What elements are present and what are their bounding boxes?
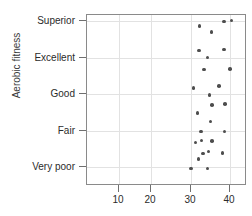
plot-area bbox=[87, 15, 245, 184]
vertical-gridline bbox=[191, 15, 192, 184]
scatter-plot-figure: Aerobic fitness SuperiorExcellentGoodFai… bbox=[0, 0, 252, 216]
x-axis-tick bbox=[150, 185, 151, 192]
y-axis-label: Good bbox=[51, 88, 75, 99]
horizontal-gridline bbox=[87, 94, 245, 95]
y-axis-tick bbox=[79, 57, 86, 58]
y-axis-label: Very poor bbox=[32, 161, 75, 172]
data-point bbox=[198, 24, 202, 28]
data-point bbox=[222, 20, 226, 24]
x-axis-title bbox=[86, 209, 246, 216]
x-axis-label: 30 bbox=[184, 194, 195, 205]
x-axis-label: 20 bbox=[144, 194, 155, 205]
data-point bbox=[197, 49, 201, 53]
data-point bbox=[210, 139, 214, 143]
data-point bbox=[223, 102, 227, 106]
y-axis-label: Superior bbox=[37, 15, 75, 26]
data-point bbox=[221, 151, 225, 155]
vertical-gridline bbox=[119, 15, 120, 184]
vertical-gridline bbox=[151, 15, 152, 184]
y-axis-tick bbox=[79, 20, 86, 21]
y-axis-tick bbox=[79, 93, 86, 94]
data-point bbox=[223, 130, 227, 134]
data-point bbox=[210, 103, 214, 107]
data-point bbox=[201, 152, 205, 156]
x-axis-tick bbox=[190, 185, 191, 192]
horizontal-gridline bbox=[87, 167, 245, 168]
data-point bbox=[206, 167, 210, 171]
x-axis-tick bbox=[118, 185, 119, 192]
data-point bbox=[210, 30, 214, 34]
data-point bbox=[196, 111, 200, 115]
vertical-gridline bbox=[230, 15, 231, 184]
data-point bbox=[222, 48, 226, 52]
horizontal-gridline bbox=[87, 58, 245, 59]
data-point bbox=[202, 68, 206, 72]
data-point bbox=[207, 150, 211, 154]
y-axis-label: Fair bbox=[58, 125, 75, 136]
y-axis-tick bbox=[79, 166, 86, 167]
data-point bbox=[208, 93, 212, 97]
y-axis-label: Excellent bbox=[34, 52, 75, 63]
data-point bbox=[192, 86, 196, 90]
data-point bbox=[199, 130, 203, 134]
data-point bbox=[209, 120, 213, 124]
x-axis-label: 40 bbox=[223, 194, 234, 205]
horizontal-gridline bbox=[87, 131, 245, 132]
data-point bbox=[217, 84, 221, 88]
x-axis-label: 10 bbox=[112, 194, 123, 205]
data-point bbox=[189, 167, 193, 171]
y-axis-title: Aerobic fitness bbox=[11, 16, 22, 116]
data-point bbox=[194, 141, 198, 145]
data-point bbox=[197, 157, 201, 161]
data-point bbox=[200, 139, 204, 143]
plot-frame bbox=[86, 14, 246, 185]
data-point bbox=[228, 67, 232, 71]
y-axis-tick bbox=[79, 130, 86, 131]
x-axis-tick bbox=[229, 185, 230, 192]
